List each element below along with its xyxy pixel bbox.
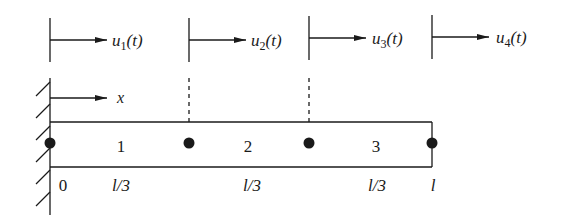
- element-3-length: l/3: [368, 176, 386, 195]
- coord-end-label: l: [431, 176, 436, 195]
- element-2-label: 2: [244, 137, 253, 156]
- displacement-u4: u4(t): [432, 15, 527, 59]
- displacement-u3: u3(t): [309, 16, 403, 60]
- svg-text:u1(t): u1(t): [112, 31, 143, 53]
- u1-symbol: u: [112, 31, 121, 50]
- u3-arg: (t): [387, 29, 403, 48]
- u2-arg: (t): [266, 31, 282, 50]
- u4-arg: (t): [511, 28, 527, 47]
- svg-text:u2(t): u2(t): [251, 31, 282, 53]
- u2-symbol: u: [251, 31, 260, 50]
- displacement-u2: u2(t): [189, 18, 282, 62]
- element-3-label: 3: [372, 137, 381, 156]
- x-axis-label: x: [116, 89, 124, 106]
- element-2-length: l/3: [243, 176, 261, 195]
- fe-bar-diagram: x 1 2 3 0 l/3 l/3 l/3 l u1(t) u2(t): [0, 0, 566, 215]
- node-4: [427, 138, 438, 149]
- x-axis-arrow: x: [50, 89, 124, 106]
- svg-text:u3(t): u3(t): [372, 29, 403, 51]
- u1-arg: (t): [127, 31, 143, 50]
- coord-start-label: 0: [59, 176, 68, 195]
- displacement-u1: u1(t): [50, 18, 143, 62]
- svg-text:u4(t): u4(t): [496, 28, 527, 50]
- element-1-length: l/3: [112, 176, 130, 195]
- node-2: [184, 138, 195, 149]
- node-3: [304, 138, 315, 149]
- u3-symbol: u: [372, 29, 381, 48]
- u4-symbol: u: [496, 28, 505, 47]
- node-connectors: [189, 78, 309, 122]
- element-1-label: 1: [117, 137, 126, 156]
- node-1: [45, 138, 56, 149]
